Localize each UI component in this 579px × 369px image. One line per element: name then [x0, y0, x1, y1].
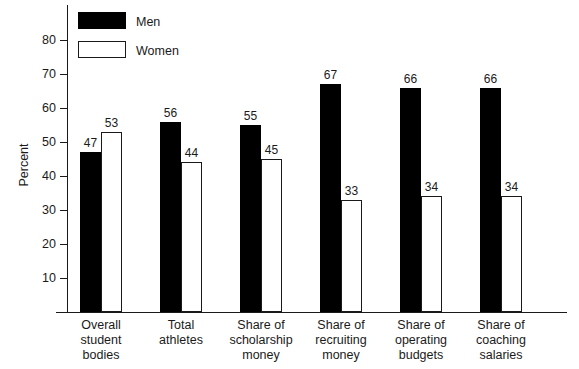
x-axis-line: [56, 312, 567, 313]
bar-value-women-3: 45: [254, 144, 289, 156]
bar-women-3: [261, 159, 282, 312]
legend-label-women: Women: [136, 45, 179, 58]
y-axis-tick-70: [60, 74, 68, 75]
y-axis-tick-10: [60, 278, 68, 279]
y-axis-tick-label-60: 60: [16, 102, 56, 115]
bar-value-women-6: 34: [494, 181, 529, 193]
y-axis-tick-label-80: 80: [16, 34, 56, 47]
y-axis-tick-label-20: 20: [16, 238, 56, 251]
bar-men-1: [80, 152, 101, 312]
category-label-2: Total athletes: [142, 318, 220, 348]
bar-men-6: [480, 88, 501, 312]
category-label-6: Share of coaching salaries: [462, 318, 540, 362]
bar-value-men-3: 55: [233, 110, 268, 122]
bar-men-5: [400, 88, 421, 312]
y-axis-tick-label-50: 50: [16, 136, 56, 149]
bar-value-men-6: 66: [473, 73, 508, 85]
y-axis-tick-30: [60, 210, 68, 211]
bar-women-4: [341, 200, 362, 312]
category-label-1: Overall student bodies: [62, 318, 140, 362]
y-axis-tick-20: [60, 244, 68, 245]
legend-label-men: Men: [136, 16, 160, 29]
y-axis-tick-60: [60, 108, 68, 109]
y-axis-tick-80: [60, 40, 68, 41]
bar-value-men-2: 56: [153, 107, 188, 119]
bar-women-6: [501, 196, 522, 312]
bar-value-women-5: 34: [414, 181, 449, 193]
bar-women-1: [101, 132, 122, 312]
y-axis-tick-label-10: 10: [16, 272, 56, 285]
legend-swatch-women: [78, 41, 126, 58]
bar-value-women-1: 53: [94, 117, 129, 129]
bar-chart: Percent 1020304050607080 475356445545673…: [0, 0, 579, 369]
bar-women-2: [181, 162, 202, 312]
category-label-5: Share of operating budgets: [382, 318, 460, 362]
category-label-3: Share of scholarship money: [222, 318, 300, 362]
y-axis-tick-label-40: 40: [16, 170, 56, 183]
y-axis-line: [67, 5, 68, 313]
bar-women-5: [421, 196, 442, 312]
category-label-4: Share of recruiting money: [302, 318, 380, 362]
bar-value-men-4: 67: [313, 69, 348, 81]
bar-men-4: [320, 84, 341, 312]
bar-value-women-4: 33: [334, 185, 369, 197]
bar-value-men-5: 66: [393, 73, 428, 85]
y-axis-tick-40: [60, 176, 68, 177]
bar-value-women-2: 44: [174, 147, 209, 159]
y-axis-tick-label-30: 30: [16, 204, 56, 217]
legend-swatch-men: [78, 12, 126, 29]
y-axis-tick-label-70: 70: [16, 68, 56, 81]
y-axis-tick-50: [60, 142, 68, 143]
